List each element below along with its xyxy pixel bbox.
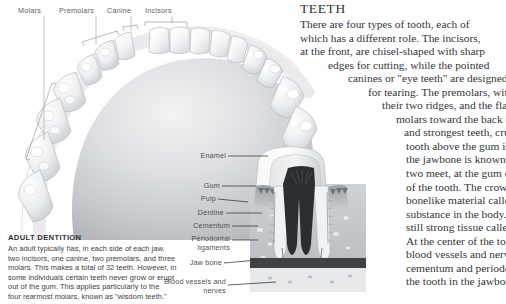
- teeth-article-line: the tooth in the jawbone.: [244, 275, 506, 289]
- teeth-infographic-page: Molars Premolars Canine Incisors: [0, 0, 506, 304]
- teeth-article-body: There are four types of tooth, each ofwh…: [244, 18, 506, 289]
- adult-dentition-caption: ADULT DENTITION An adult typically has, …: [8, 233, 200, 302]
- adult-dentition-line: molars. This makes a total of 32 teeth. …: [8, 263, 200, 273]
- teeth-article-line: molars toward the back of the jaw,: [244, 113, 506, 127]
- teeth-article-line: which has a different role. The incisors…: [244, 32, 506, 46]
- adult-dentition-line: out of the gum. This applies particularl…: [8, 282, 200, 292]
- teeth-article-line: still strong tissue called dentine.: [244, 221, 506, 235]
- teeth-article-line: blood vessels and nerves. A layer of: [244, 248, 506, 262]
- teeth-article-line: two meet, at the gum or gingiva, is the …: [244, 167, 506, 181]
- tooth-incisor: [210, 31, 230, 58]
- teeth-article-title: TEETH: [300, 1, 506, 17]
- tooth-incisor: [170, 27, 190, 54]
- teeth-article-line: and strongest teeth, crush and grind.: [244, 126, 506, 140]
- teeth-article-line: the jawbone is known as the root. Where …: [244, 153, 506, 167]
- adult-dentition-title: ADULT DENTITION: [8, 233, 200, 242]
- arch-label-incisors: Incisors: [145, 6, 172, 15]
- teeth-article-line: There are four types of tooth, each of: [244, 18, 506, 32]
- tooth-canine: [115, 32, 135, 60]
- cs-label-pulp: Pulp: [168, 195, 216, 204]
- cs-label-gum: Gum: [168, 182, 220, 191]
- teeth-article-line: canines or "eye teeth" are designed: [244, 72, 506, 86]
- teeth-article: TEETH There are four types of tooth, eac…: [244, 0, 506, 304]
- adult-dentition-body: An adult typically has, in each side of …: [8, 244, 200, 302]
- cs-label-cementum: Cementum: [160, 222, 230, 231]
- arch-label-canine: Canine: [107, 6, 131, 15]
- teeth-article-line: edges for cutting, while the pointed: [244, 59, 506, 73]
- cs-label-enamel: Enamel: [168, 152, 226, 161]
- cs-label-dentine: Dentine: [166, 209, 224, 218]
- adult-dentition-line: four rearmost molars, known as "wisdom t…: [8, 292, 200, 302]
- teeth-article-line: their two ridges, and the flatter: [244, 99, 506, 113]
- tooth-incisor: [190, 28, 210, 54]
- teeth-article-line: of the tooth. The crown's outer layer is…: [244, 181, 506, 195]
- arch-label-molars: Molars: [18, 6, 41, 15]
- teeth-article-line: at the front, are chisel-shaped with sha…: [244, 45, 506, 59]
- arch-label-premolars: Premolars: [59, 6, 94, 15]
- tooth-incisor: [149, 27, 170, 54]
- teeth-article-line: substance in the body. Beneath it is a s…: [244, 208, 506, 222]
- teeth-article-line: tooth above the gum is the crown; that i…: [244, 140, 506, 154]
- teeth-article-line: cementum and periodontal ligaments ancho…: [244, 262, 506, 276]
- adult-dentition-line: some individuals certain teeth never gro…: [8, 273, 200, 283]
- teeth-article-line: for tearing. The premolars, with: [244, 86, 506, 100]
- teeth-article-line: bonelike material called enamel, the har…: [244, 194, 506, 208]
- teeth-article-line: At the center of the tooth is the pulp, …: [244, 235, 506, 249]
- adult-dentition-line: An adult typically has, in each side of …: [8, 244, 200, 254]
- adult-dentition-line: two incisors, one canine, two premolars,…: [8, 254, 200, 264]
